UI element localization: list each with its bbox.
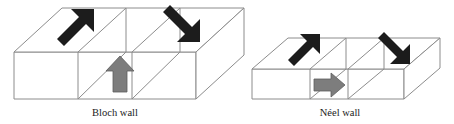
panel-bloch-wall: Bloch wall: [14, 5, 244, 118]
domain-wall-figure: Bloch wall: [0, 0, 454, 124]
bloch-front-face: [14, 52, 196, 99]
panel-neel-wall: Néel wall: [252, 32, 440, 118]
bloch-wall-caption: Bloch wall: [92, 107, 138, 118]
neel-wall-caption: Néel wall: [320, 107, 361, 118]
domain-wall-svg: Bloch wall: [0, 0, 454, 124]
